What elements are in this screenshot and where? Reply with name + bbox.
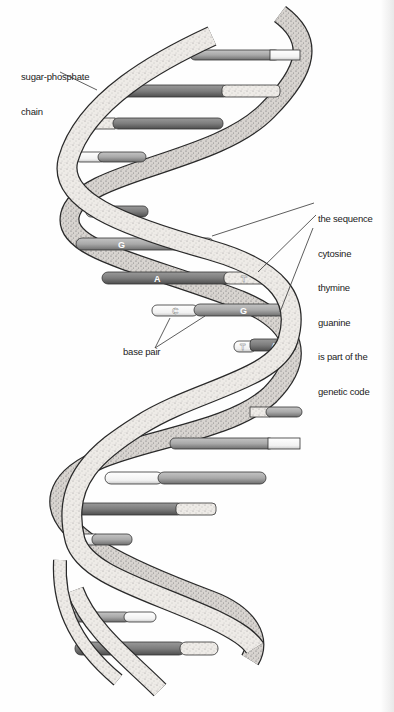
label-line: sugar-phosphate [21,71,89,83]
diagram-page: T A G C A T C G [0,0,394,712]
base-letter-C: C [172,306,179,316]
base-bar [113,118,223,129]
base-bar [158,472,266,484]
base-letter-G: G [118,240,125,250]
base-pair-C-G: C G [152,304,290,316]
base-bar [170,438,274,449]
label-line: is part of the [318,351,373,363]
base-letter-T: T [240,342,246,352]
label-line: cytosine [318,248,373,260]
base-bar [92,534,132,545]
base-bar [72,503,184,515]
label-line: chain [21,106,89,118]
base-letter-T: T [241,274,247,284]
label-line: the sequence [318,213,373,225]
label-base-pair: base pair [123,346,160,358]
label-genetic-code-sequence: the sequence cytosine thymine guanine is… [318,190,373,420]
base-bar [266,407,302,417]
front-strand [60,36,291,690]
base-bar [98,152,146,162]
label-sugar-phosphate-chain: sugar-phosphate chain [21,48,89,140]
base-letter-G: G [240,306,247,316]
leader-line-base-pair-2 [155,316,205,348]
leader-line-cytosine [212,203,314,236]
label-line: thymine [318,282,373,294]
base-letter-A: A [154,274,161,284]
label-line: guanine [318,317,373,329]
label-line: genetic code [318,386,373,398]
